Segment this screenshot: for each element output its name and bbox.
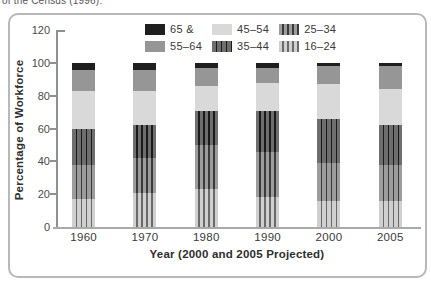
x-tick-label: 1960 [53,231,114,243]
y-tick-label: 80 [12,90,50,102]
legend-swatch-icon [145,41,165,52]
bar-segment [379,201,402,227]
plot-area [53,63,421,227]
bar-segment [195,189,218,227]
bar-segment [133,125,156,158]
bar-segment [317,201,340,227]
legend-label: 65 & [170,23,194,35]
x-tick-label: 2000 [298,231,359,243]
bar-segment [256,68,279,83]
stacked-bar-2005 [379,63,402,227]
legend-swatch-icon [145,24,165,35]
x-categories: 196019701980199020002005 [53,231,421,243]
y-tick-label: 60 [12,123,50,135]
bar-segment [133,70,156,91]
bar-slot [114,63,175,227]
bar-slot [53,63,114,227]
x-tick-label: 1970 [114,231,175,243]
bar-segment [379,165,402,201]
bar-segment [72,91,95,129]
bar-slot [176,63,237,227]
x-axis-title: Year (2000 and 2005 Projected) [53,248,421,260]
legend-item: 16–24 [279,40,336,52]
x-tick-label: 1980 [176,231,237,243]
y-tick-label: 20 [12,188,50,200]
caption-fragment: of the Census (1996). [2,0,102,6]
stacked-bar-1970 [133,63,156,227]
legend-label: 25–34 [304,23,336,35]
y-tick-label: 0 [12,221,50,233]
bar-segment [133,158,156,192]
bar-segment [317,119,340,163]
stacked-bar-2000 [317,63,340,227]
legend-item: 25–34 [279,23,336,35]
bar-segment [256,111,279,152]
legend-label: 16–24 [304,40,336,52]
stacked-bar-1980 [195,63,218,227]
bar-segment [379,125,402,164]
bar-segment [72,199,95,227]
legend-swatch-icon [212,41,232,52]
y-tick-label: 120 [12,24,50,36]
legend-item: 35–44 [212,40,269,52]
x-axis-line [53,227,421,229]
legend-item: 55–64 [145,40,202,52]
legend-label: 45–54 [237,23,269,35]
bar-segment [72,165,95,199]
x-tick-label: 2005 [360,231,421,243]
y-axis-top-tick [56,30,65,32]
bar-segment [72,129,95,165]
x-tick-label: 1990 [237,231,298,243]
figure: of the Census (1996). 65 &45–5425–3455–6… [0,0,431,281]
bar-segment [195,86,218,111]
bar-segment [133,193,156,227]
bar-segment [379,89,402,125]
bar-segment [195,145,218,189]
legend-item: 65 & [145,23,202,35]
legend: 65 &45–5425–3455–6435–4416–24 [145,23,336,52]
bar-slot [237,63,298,227]
y-tick-label: 40 [12,155,50,167]
stacked-bar-1990 [256,63,279,227]
bar-segment [256,83,279,111]
bar-segment [256,152,279,198]
bar-segment [195,111,218,145]
legend-swatch-icon [279,24,299,35]
bar-slot [360,63,421,227]
legend-swatch-icon [212,24,232,35]
bar-segment [72,70,95,91]
bar-segment [195,68,218,86]
bar-slot [298,63,359,227]
stacked-bar-1960 [72,63,95,227]
bar-segment [317,66,340,84]
legend-label: 55–64 [170,40,202,52]
bar-segment [256,197,279,227]
bar-segment [317,163,340,201]
legend-swatch-icon [279,41,299,52]
bar-segment [133,91,156,125]
legend-label: 35–44 [237,40,269,52]
legend-item: 45–54 [212,23,269,35]
bar-segment [317,84,340,118]
bar-segment [379,66,402,89]
y-tick-label: 100 [12,57,50,69]
